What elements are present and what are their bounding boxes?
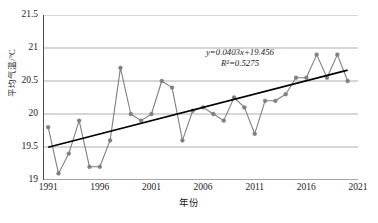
x-tick-label: 2006 — [183, 182, 223, 193]
data-point — [119, 66, 123, 70]
x-tick-label: 2016 — [286, 182, 326, 193]
data-point — [315, 53, 319, 57]
data-point — [284, 92, 288, 96]
plot-svg — [43, 15, 358, 180]
data-point — [335, 53, 339, 57]
x-tick-label: 2021 — [338, 182, 378, 193]
trendline-equation-text: y=0.0403x+19.456 — [185, 47, 295, 58]
plot-area — [43, 15, 358, 180]
trendline — [48, 70, 348, 147]
y-tick-label: 20 — [4, 109, 38, 119]
y-tick-label: 20.5 — [4, 76, 38, 86]
data-point — [160, 79, 164, 83]
data-point — [77, 119, 81, 123]
data-point — [88, 165, 92, 169]
data-point — [263, 99, 267, 103]
data-point — [150, 112, 154, 116]
x-tick-label: 1991 — [28, 182, 68, 193]
data-point — [181, 139, 185, 143]
y-tick-label: 21 — [4, 43, 38, 53]
data-point — [46, 125, 50, 129]
data-point — [273, 99, 277, 103]
data-point — [212, 112, 216, 116]
x-tick-label: 2001 — [131, 182, 171, 193]
data-point — [129, 112, 133, 116]
x-tick-label: 2011 — [235, 182, 275, 193]
data-point — [139, 119, 143, 123]
data-point — [242, 106, 246, 110]
y-tick-label: 21.5 — [4, 10, 38, 20]
x-axis-tick-labels: 1991199620012006201120162021 — [43, 182, 358, 196]
trendline-r-squared-text: R²=0.5275 — [185, 58, 295, 69]
data-point — [304, 76, 308, 80]
data-point — [253, 132, 257, 136]
x-axis-title: 年份 — [0, 198, 378, 209]
data-point — [98, 165, 102, 169]
data-point — [346, 79, 350, 83]
data-point — [222, 119, 226, 123]
data-point — [67, 152, 71, 156]
trendline-equation-annotation: y=0.0403x+19.456 R²=0.5275 — [185, 47, 295, 69]
data-point — [294, 76, 298, 80]
data-point — [108, 139, 112, 143]
data-point — [170, 86, 174, 90]
temperature-trend-chart: 平均气温/°C 1919.52020.52121.5 y=0.0403x+19.… — [0, 0, 378, 223]
x-tick-label: 1996 — [80, 182, 120, 193]
data-point — [57, 172, 61, 176]
y-tick-label: 19.5 — [4, 142, 38, 152]
